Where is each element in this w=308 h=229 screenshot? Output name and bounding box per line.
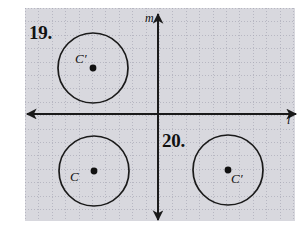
geometry-figure: 19. 20. m l C′ C C′ (0, 0, 308, 229)
center-point-bottom-left (91, 168, 98, 175)
axis-label-l: l (287, 114, 290, 126)
circle-center-label-bottom-left: C (70, 170, 79, 183)
problem-number-20: 20. (162, 131, 185, 150)
axis-label-m: m (145, 12, 154, 24)
circle-center-label-top-left: C′ (75, 52, 87, 65)
problem-number-19: 19. (29, 23, 52, 42)
center-point-top-left (90, 65, 97, 72)
circle-center-label-bottom-right: C′ (231, 172, 243, 185)
